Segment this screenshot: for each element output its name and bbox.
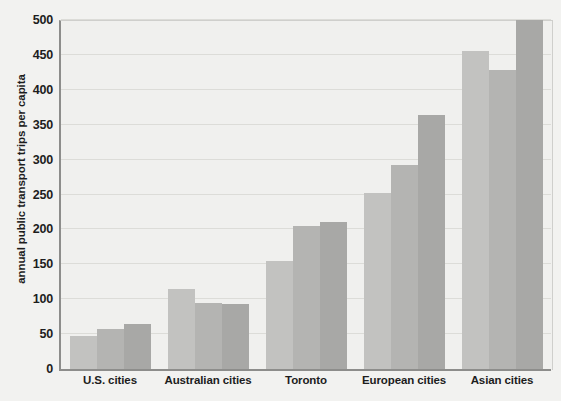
x-tick-label: Australian cities [164,374,251,386]
bar [168,289,195,369]
bar [293,226,320,369]
y-tick-label-150: 150 [7,258,53,271]
y-tick-label-0: 0 [7,363,53,376]
y-tick-label-100: 100 [7,293,53,306]
x-tick-label: Toronto [285,374,327,386]
bar [97,329,124,369]
bar [195,303,222,369]
bar-group [70,20,151,369]
y-tick-label-50: 50 [7,328,53,341]
bar [70,336,97,370]
x-tick-label: U.S. cities [83,374,137,386]
bar [391,165,418,369]
x-tick-label: Asian cities [471,374,534,386]
bar [222,304,249,369]
bar [516,20,543,369]
bar-group [364,20,445,369]
plot-area [61,20,551,369]
bar-group [168,20,249,369]
x-tick-label: European cities [362,374,446,386]
bar-group [462,20,543,369]
y-axis-title: annual public transport trips per capita [15,54,27,304]
y-tick-label-350: 350 [7,118,53,131]
chart-container: 050100150200250300350400450500 annual pu… [0,0,561,401]
x-axis-line [59,369,551,371]
bar [489,70,516,369]
y-tick-label-250: 250 [7,188,53,201]
x-axis: U.S. citiesAustralian citiesTorontoEurop… [61,374,551,396]
y-tick-label-300: 300 [7,153,53,166]
y-tick-label-400: 400 [7,84,53,97]
bar [462,51,489,369]
bar [418,115,445,369]
bar [124,324,151,369]
y-tick-label-200: 200 [7,223,53,236]
y-tick-label-450: 450 [7,49,53,62]
y-tick-label-500: 500 [7,14,53,27]
bar [364,193,391,369]
bar [266,261,293,369]
bar-group [266,20,347,369]
bar [320,222,347,369]
